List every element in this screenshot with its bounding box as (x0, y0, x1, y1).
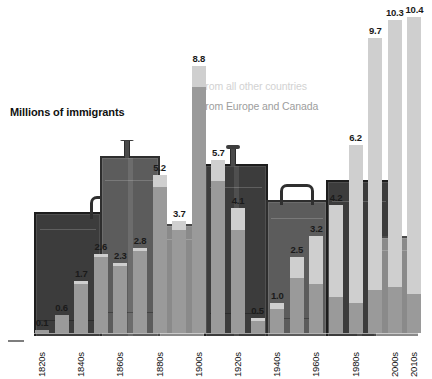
bar-segment-europe-canada (113, 266, 127, 333)
bar-segment-other-countries (192, 66, 206, 87)
bar-value-label-1970s: 4.2 (325, 192, 347, 203)
bar-segment-europe-canada (211, 181, 225, 333)
bar-1820s (35, 330, 49, 333)
bar-1940s (270, 303, 284, 333)
bar-segment-other-countries (329, 205, 343, 296)
bar-segment-europe-canada (192, 87, 206, 333)
bar-value-label-1890s: 3.7 (168, 208, 190, 219)
bar-value-label-1920s: 4.1 (227, 195, 249, 206)
bar-value-label-1860s: 2.3 (109, 250, 131, 261)
bar-value-label-1980s: 6.2 (345, 132, 367, 143)
x-axis-tick-1940s: 1940s (271, 352, 282, 377)
bar-segment-europe-canada (94, 257, 108, 333)
bar-1880s (153, 175, 167, 333)
bar-1920s (231, 208, 245, 333)
bar-1990s (368, 38, 382, 333)
bar-1890s (172, 221, 186, 333)
bar-segment-europe-canada (35, 330, 49, 333)
bar-segment-europe-canada (349, 303, 363, 333)
bar-segment-europe-canada (407, 294, 421, 334)
x-axis-tick-1920s: 1920s (232, 352, 243, 377)
bar-1850s (94, 254, 108, 333)
bar-segment-europe-canada (231, 230, 245, 333)
bar-1840s (74, 281, 88, 333)
x-axis-tick-2000s: 2000s (389, 352, 400, 377)
bar-1830s (55, 315, 69, 333)
bar-2000s (388, 20, 402, 333)
bar-segment-europe-canada (270, 309, 284, 333)
bar-segment-other-countries (211, 160, 225, 181)
x-axis-tick-1840s: 1840s (75, 352, 86, 377)
x-axis-tick-1880s: 1880s (154, 352, 165, 377)
bar-value-label-1880s: 5.2 (149, 162, 171, 173)
bar-value-label-1870s: 2.8 (129, 235, 151, 246)
x-axis-tick-1960s: 1960s (310, 352, 321, 377)
bar-segment-europe-canada (290, 278, 304, 333)
bar-segment-other-countries (153, 175, 167, 187)
bar-value-label-1990s: 9.7 (364, 25, 386, 36)
x-axis-tick-1820s: 1820s (36, 352, 47, 377)
bar-1960s (309, 236, 323, 333)
bar-value-label-1960s: 3.2 (305, 223, 327, 234)
chart-figure: Millions of immigrants From all other co… (0, 0, 432, 379)
bar-1870s (133, 248, 147, 333)
bar-1860s (113, 263, 127, 333)
bar-segment-europe-canada (388, 287, 402, 333)
bar-value-label-1840s: 1.7 (70, 268, 92, 279)
bar-segment-europe-canada (74, 284, 88, 333)
bar-1970s (329, 205, 343, 333)
bar-1910s (211, 160, 225, 333)
bar-value-label-1930s: 0.5 (247, 305, 269, 316)
bar-segment-other-countries (349, 145, 363, 303)
bar-1980s (349, 145, 363, 333)
bar-segment-europe-canada (133, 251, 147, 333)
bar-segment-europe-canada (153, 187, 167, 333)
plot-area: 0.10.61.72.62.32.85.23.78.85.74.10.51.02… (0, 0, 432, 379)
x-axis-tick-1900s: 1900s (193, 352, 204, 377)
bar-1900s (192, 66, 206, 333)
x-axis-tick-1860s: 1860s (114, 352, 125, 377)
bar-value-label-1820s: 0.1 (31, 317, 53, 328)
bar-segment-other-countries (388, 20, 402, 287)
bar-2010s (407, 17, 421, 333)
bar-segment-other-countries (172, 221, 186, 230)
bar-value-label-1950s: 2.5 (286, 244, 308, 255)
bar-segment-europe-canada (329, 297, 343, 333)
bar-segment-other-countries (290, 257, 304, 278)
bar-value-label-1940s: 1.0 (266, 290, 288, 301)
bar-segment-other-countries (309, 236, 323, 285)
bar-value-label-1900s: 8.8 (188, 53, 210, 64)
bar-segment-europe-canada (55, 315, 69, 333)
bar-value-label-1830s: 0.6 (51, 302, 73, 313)
bar-segment-europe-canada (309, 284, 323, 333)
x-axis-tick-1980s: 1980s (350, 352, 361, 377)
bar-value-label-2010s: 10.4 (403, 4, 425, 15)
bar-segment-other-countries (368, 38, 382, 290)
bar-value-label-1910s: 5.7 (207, 147, 229, 158)
x-axis-tick-2010s: 2010s (408, 352, 419, 377)
bar-1950s (290, 257, 304, 333)
bar-segment-other-countries (407, 17, 421, 294)
bar-segment-other-countries (231, 208, 245, 229)
bar-segment-europe-canada (251, 321, 265, 333)
bar-1930s (251, 318, 265, 333)
bar-segment-europe-canada (172, 230, 186, 333)
bar-segment-europe-canada (368, 290, 382, 333)
